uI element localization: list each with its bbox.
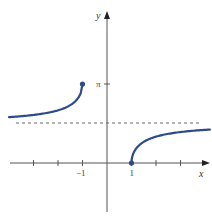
arcsec-chart: y x π −1 1 (0, 0, 212, 221)
x-axis-label: x (198, 168, 204, 179)
curve-left-branch (9, 84, 83, 117)
x-axis-arrow-icon (202, 160, 210, 166)
neg-one-tick-label: −1 (76, 168, 86, 178)
curve-right-branch (132, 130, 210, 163)
endpoint-dot-right (129, 160, 134, 165)
one-tick-label: 1 (130, 168, 135, 178)
endpoint-dot-left (80, 81, 85, 86)
pi-tick-label: π (96, 79, 101, 89)
y-axis-label: y (95, 10, 101, 21)
y-axis-arrow-icon (104, 11, 110, 19)
